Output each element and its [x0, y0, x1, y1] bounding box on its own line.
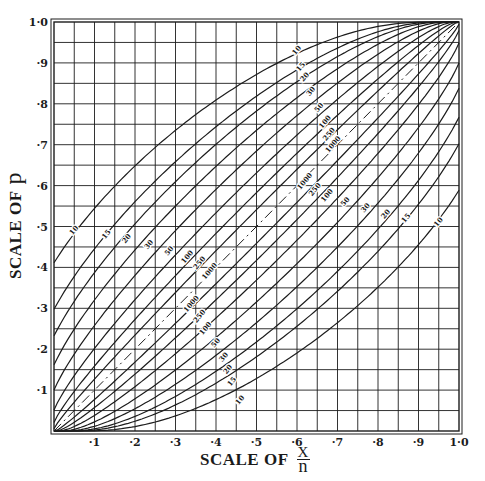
curve-labels: 1015203050100250100010002501005030201510… — [67, 43, 445, 406]
curve-label-n15: 15 — [399, 211, 412, 224]
y-tick-label: ·7 — [37, 139, 48, 152]
curve-label-n30: 30 — [217, 350, 230, 363]
curve-label-n100: 100 — [319, 187, 335, 204]
x-axis-denominator: n — [298, 460, 308, 473]
curve-label-n20: 20 — [221, 362, 234, 375]
y-axis-symbol: p — [0, 172, 26, 185]
y-axis-title: SCALE OFp — [0, 151, 27, 301]
curve-label-n10: 10 — [67, 223, 80, 236]
x-tick-label: ·8 — [372, 436, 384, 449]
x-tick-label: 1·0 — [449, 436, 468, 449]
curve-label-n10: 10 — [290, 43, 303, 56]
y-axis-title-text: SCALE OF — [6, 190, 25, 279]
x-tick-label: ·3 — [170, 436, 181, 449]
y-tick-label: ·1 — [37, 384, 48, 397]
y-tick-label: ·4 — [37, 261, 49, 274]
x-tick-label: ·1 — [89, 436, 100, 449]
confidence-belt-chart: 1015203050100250100010002501005030201510… — [0, 0, 485, 481]
x-tick-label: ·9 — [413, 436, 424, 449]
y-tick-label: ·6 — [37, 180, 49, 193]
y-tick-label: ·5 — [37, 221, 48, 234]
y-tick-label: ·9 — [37, 57, 48, 70]
y-tick-label: ·2 — [37, 343, 48, 356]
x-axis-title-text: SCALE OF — [200, 450, 289, 470]
x-tick-label: ·2 — [129, 436, 140, 449]
x-axis-fraction: X n — [297, 446, 310, 473]
curve-label-n10: 10 — [233, 393, 246, 406]
curve-label-n50: 50 — [162, 244, 175, 257]
y-tick-label: ·3 — [37, 302, 48, 315]
x-axis-title: SCALE OF X n — [200, 446, 310, 473]
curve-label-n50: 50 — [209, 336, 222, 349]
curve-label-n20: 20 — [120, 232, 133, 245]
y-tick-label: ·8 — [37, 98, 49, 111]
y-tick-label: 1·0 — [29, 16, 48, 29]
x-tick-label: ·7 — [332, 436, 343, 449]
curve-label-n30: 30 — [304, 84, 317, 97]
curve-label-n20: 20 — [379, 207, 392, 220]
